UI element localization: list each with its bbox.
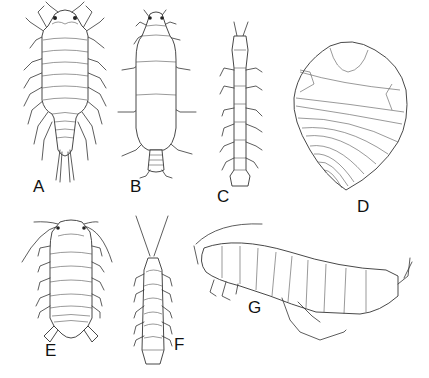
panel-label-c: C — [217, 188, 229, 205]
specimen-b-drawing — [118, 10, 196, 178]
panel-label-f: F — [174, 336, 184, 353]
specimen-d-drawing — [294, 42, 407, 190]
specimen-e-drawing — [22, 220, 112, 342]
panel-label-b: B — [130, 178, 141, 195]
line-drawings — [0, 0, 429, 378]
specimen-plate: A B C D E F G — [0, 0, 429, 378]
panel-label-g: G — [248, 299, 261, 316]
specimen-c-drawing — [220, 22, 262, 186]
specimen-g-drawing — [194, 224, 412, 340]
specimen-f-drawing — [134, 216, 172, 364]
specimen-a-drawing — [24, 2, 106, 182]
panel-label-a: A — [33, 178, 44, 195]
panel-label-e: E — [45, 342, 56, 359]
panel-label-d: D — [357, 198, 369, 215]
